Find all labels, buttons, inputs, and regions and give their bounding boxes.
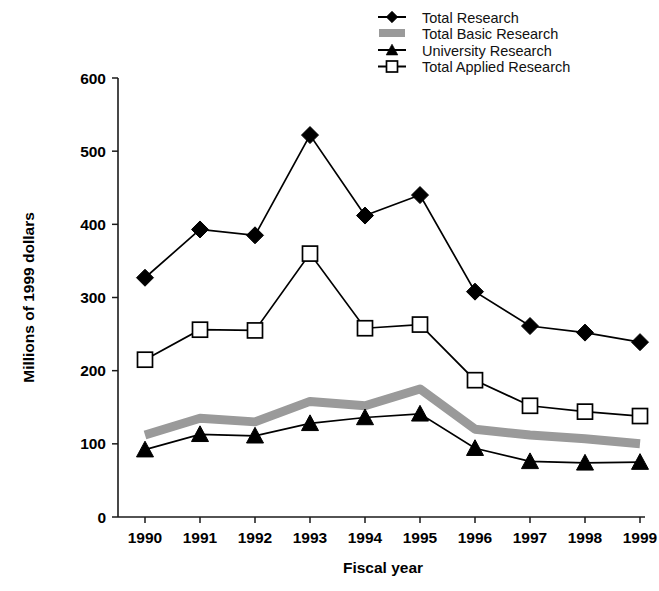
y-tick-label: 0 — [97, 509, 106, 526]
data-point-marker — [467, 283, 484, 300]
series-path — [145, 135, 640, 342]
data-point-marker — [632, 334, 649, 351]
y-axis-title: Millions of 1999 dollars — [20, 212, 37, 383]
legend-item-total-applied-research[interactable]: Total Applied Research — [378, 59, 570, 75]
data-point-marker — [577, 324, 594, 341]
y-tick-label: 300 — [80, 289, 106, 306]
series-path — [145, 254, 640, 416]
data-point-marker — [302, 127, 319, 144]
data-point-marker — [247, 227, 264, 244]
x-axis-tick-labels: 1990199119921993199419951996199719981999 — [128, 529, 658, 546]
x-tick-label: 1992 — [238, 529, 272, 546]
y-tick-label: 100 — [80, 435, 106, 452]
legend-label: Total Research — [422, 10, 519, 26]
x-tick-label: 1995 — [403, 529, 438, 546]
x-tick-label: 1999 — [623, 529, 658, 546]
data-point-marker — [468, 373, 483, 388]
line-chart: 0100200300400500600 19901991199219931994… — [0, 0, 659, 591]
chart-legend: Total ResearchTotal Basic ResearchUniver… — [378, 10, 570, 76]
data-point-marker — [138, 352, 153, 367]
series-total-research — [137, 127, 649, 351]
legend-item-university-research[interactable]: University Research — [378, 43, 552, 59]
data-point-marker — [303, 246, 318, 261]
x-tick-label: 1990 — [128, 529, 162, 546]
data-point-marker — [522, 318, 539, 335]
x-axis-title: Fiscal year — [343, 559, 423, 576]
data-point-marker — [413, 317, 428, 332]
legend-swatch-band — [379, 29, 405, 37]
data-point-marker — [633, 409, 648, 424]
y-axis-ticks — [112, 78, 118, 517]
y-tick-label: 600 — [80, 70, 106, 87]
y-tick-label: 500 — [80, 143, 106, 160]
y-tick-label: 400 — [80, 216, 106, 233]
legend-swatch-marker — [386, 11, 398, 23]
x-tick-label: 1994 — [348, 529, 383, 546]
x-tick-label: 1991 — [183, 529, 218, 546]
legend-label: University Research — [422, 43, 552, 59]
data-point-marker — [193, 322, 208, 337]
data-point-marker — [137, 441, 154, 457]
chart-container: 0100200300400500600 19901991199219931994… — [0, 0, 659, 591]
x-tick-label: 1996 — [458, 529, 493, 546]
data-point-marker — [467, 440, 484, 456]
data-point-marker — [523, 398, 538, 413]
x-axis-ticks — [145, 517, 640, 523]
data-point-marker — [248, 323, 263, 338]
y-axis-tick-labels: 0100200300400500600 — [80, 70, 106, 526]
x-tick-label: 1998 — [568, 529, 603, 546]
data-point-marker — [578, 404, 593, 419]
x-tick-label: 1997 — [513, 529, 547, 546]
legend-label: Total Applied Research — [422, 59, 570, 75]
legend-swatch-marker — [387, 61, 398, 72]
y-tick-label: 200 — [80, 362, 106, 379]
legend-label: Total Basic Research — [422, 26, 558, 42]
legend-item-total-research[interactable]: Total Research — [378, 10, 519, 26]
axes-group — [112, 78, 645, 523]
legend-item-total-basic-research[interactable]: Total Basic Research — [379, 26, 558, 42]
data-point-marker — [357, 207, 374, 224]
data-point-marker — [412, 187, 429, 204]
data-point-marker — [358, 321, 373, 336]
series-layer — [137, 127, 649, 471]
data-point-marker — [412, 405, 429, 421]
x-tick-label: 1993 — [293, 529, 328, 546]
